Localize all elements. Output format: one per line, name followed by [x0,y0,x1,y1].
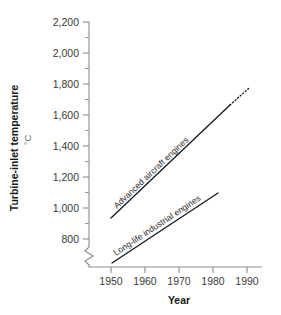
x-tick-label: 1960 [133,275,157,287]
x-axis-title: Year [168,294,190,306]
y-axis-title: Turbine-inlet temperature [8,85,20,212]
series-line-long-life-industrial-engines [112,193,218,263]
y-tick-label: 2,000 [53,47,79,59]
x-axis-ticks [111,267,247,273]
x-axis-tick-labels: 1950 1960 1970 1980 1990 [99,275,259,287]
x-tick-label: 1950 [99,275,123,287]
y-tick-label: 2,200 [53,16,79,28]
x-tick-label: 1980 [201,275,225,287]
y-axis-tick-labels: 2,200 2,000 1,800 1,600 1,400 1,200 1,00… [53,16,79,245]
x-tick-label: 1970 [167,275,191,287]
y-tick-label: 800 [61,233,79,245]
y-tick-label: 1,400 [53,140,79,152]
series-label-advanced-aircraft-engines: Advanced aircraft engines [111,135,190,211]
y-axis-break-icon [85,247,93,266]
y-tick-label: 1,200 [53,171,79,183]
y-tick-label: 1,000 [53,202,79,214]
y-tick-label: 1,800 [53,78,79,90]
y-axis-unit-label: °C [22,135,33,146]
y-tick-label: 1,600 [53,109,79,121]
series-line-advanced-aircraft-engines [111,105,230,218]
series-projection-advanced-aircraft-engines [230,88,249,105]
turbine-inlet-temperature-chart: Turbine-inlet temperature °C [0,0,281,315]
y-axis-minor-ticks [85,38,89,224]
x-tick-label: 1990 [235,275,259,287]
chart-figure: Turbine-inlet temperature °C [0,0,281,315]
